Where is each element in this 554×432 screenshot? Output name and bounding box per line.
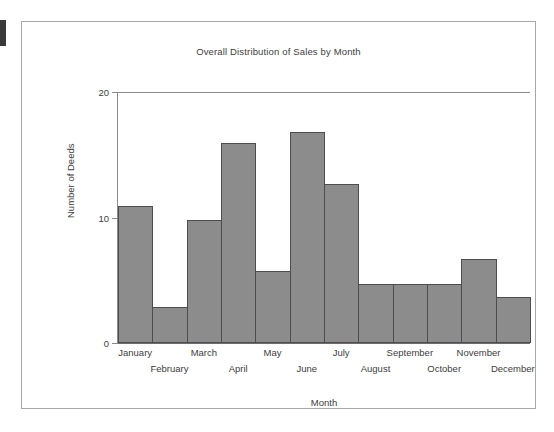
x-tick-label-november: November <box>457 347 501 358</box>
y-axis-title: Number of Deeds <box>65 144 76 218</box>
bar-april <box>221 143 256 343</box>
bar-october <box>427 284 462 343</box>
plot-area: 01020 <box>118 92 530 343</box>
y-tick-label: 10 <box>98 212 109 223</box>
x-tick-label-july: July <box>333 347 350 358</box>
chart-title: Overall Distribution of Sales by Month <box>22 46 535 57</box>
x-tick-label-october: October <box>427 363 461 374</box>
bar-series <box>118 92 530 343</box>
bar-june <box>290 132 325 343</box>
x-axis-title: Month <box>118 397 530 408</box>
x-tick-label-december: December <box>491 363 535 374</box>
scan-edge-artifact <box>0 20 6 46</box>
x-tick-label-may: May <box>264 347 282 358</box>
x-axis-tick-labels: JanuaryFebruaryMarchAprilMayJuneJulyAugu… <box>118 347 530 389</box>
bar-august <box>358 284 393 343</box>
bar-september <box>393 284 428 343</box>
bar-may <box>255 271 290 343</box>
bar-december <box>496 297 531 343</box>
y-tick-mark <box>112 343 118 344</box>
x-tick-label-january: January <box>118 347 152 358</box>
bar-january <box>118 206 153 343</box>
y-tick-label: 0 <box>104 338 109 349</box>
x-tick-label-august: August <box>361 363 391 374</box>
bar-march <box>187 220 222 343</box>
bar-november <box>461 259 496 343</box>
x-tick-label-february: February <box>150 363 188 374</box>
x-tick-label-june: June <box>297 363 318 374</box>
y-tick-label: 20 <box>98 87 109 98</box>
x-tick-label-september: September <box>387 347 433 358</box>
bar-july <box>324 184 359 343</box>
x-tick-label-march: March <box>191 347 217 358</box>
figure-frame: Overall Distribution of Sales by Month N… <box>21 21 536 409</box>
x-tick-label-april: April <box>229 363 248 374</box>
bar-february <box>152 307 187 343</box>
